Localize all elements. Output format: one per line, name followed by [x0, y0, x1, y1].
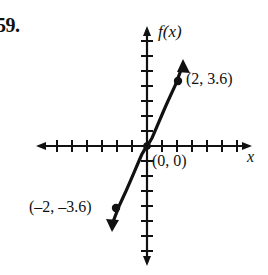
point-label-origin: (0, 0) — [152, 152, 187, 170]
point-label-upper: (2, 3.6) — [186, 70, 233, 88]
x-axis-label: x — [247, 148, 254, 166]
y-axis-label: f(x) — [158, 22, 182, 42]
point-marker-origin — [143, 142, 151, 150]
function-graph — [0, 0, 268, 275]
y-axis-top-arrowhead — [143, 26, 151, 36]
figure-page: 59. — [0, 0, 268, 275]
point-marker-upper — [174, 77, 182, 85]
point-label-lower: (–2, –3.6) — [29, 198, 92, 216]
curve-lower-arrowhead — [106, 219, 119, 232]
point-marker-lower — [112, 204, 120, 212]
x-axis-left-arrowhead — [36, 142, 46, 150]
y-axis-bottom-arrowhead — [143, 256, 151, 266]
